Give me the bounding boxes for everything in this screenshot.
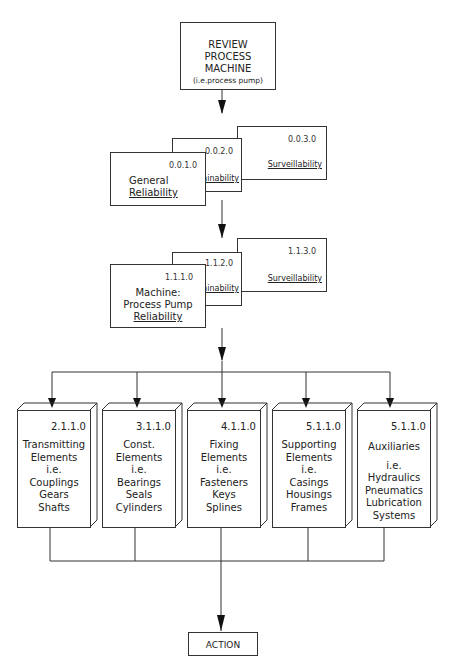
- reliability-line: Reliability: [111, 311, 205, 323]
- machine-line: Machine:: [111, 287, 205, 299]
- element-line: Lubrication: [358, 497, 430, 510]
- element-line: Fasteners: [188, 477, 260, 490]
- element-line: Couplings: [18, 477, 90, 490]
- code-label: 2.1.1.0: [51, 421, 86, 432]
- surveillability-box-0: 0.0.3.0 Surveillability: [237, 126, 327, 180]
- element-line: i.e.: [103, 464, 175, 477]
- element-line: Shafts: [18, 502, 90, 515]
- code-label: 0.0.3.0: [288, 135, 316, 144]
- code-label: 4.1.1.0: [221, 421, 256, 432]
- code-label: 5.1.1.0: [306, 421, 341, 432]
- element-line: Frames: [273, 502, 345, 515]
- code-label: 0.0.1.0: [169, 161, 197, 170]
- element-cube-const: 3.1.1.0 Const. Elements i.e. Bearings Se…: [101, 402, 183, 528]
- element-line: Fixing: [188, 439, 260, 452]
- element-line: Const.: [103, 439, 175, 452]
- element-cube-supporting: 5.1.1.0 Supporting Elements i.e. Casings…: [271, 402, 353, 528]
- element-line: Casings: [273, 477, 345, 490]
- element-line: Supporting: [273, 439, 345, 452]
- element-line: Transmitting: [18, 439, 90, 452]
- element-cube-auxiliaries: 5.1.1.0 Auxiliaries i.e. Hydraulics Pneu…: [356, 402, 438, 528]
- code-label: 3.1.1.0: [136, 421, 171, 432]
- action-label: ACTION: [189, 639, 257, 651]
- machine-line: MACHINE: [181, 63, 275, 75]
- element-line: Systems: [358, 510, 430, 523]
- surveillability-label: Surveillability: [268, 159, 322, 171]
- element-cube-transmitting: 2.1.1.0 Transmitting Elements i.e. Coupl…: [16, 402, 98, 528]
- element-line: Keys: [188, 489, 260, 502]
- element-line: Hydraulics: [358, 472, 430, 485]
- code-label: 5.1.1.0: [391, 421, 426, 432]
- code-label: 0.0.2.0: [205, 147, 233, 156]
- code-label: 1.1.1.0: [165, 273, 193, 282]
- element-line: Elements: [188, 452, 260, 465]
- general-reliability-box: 0.0.1.0 General Reliability: [110, 152, 206, 206]
- review-process-machine-box: REVIEW PROCESS MACHINE (i.e.process pump…: [180, 22, 276, 90]
- surveillability-label: Surveillability: [268, 273, 322, 285]
- element-cube-fixing: 4.1.1.0 Fixing Elements i.e. Fasteners K…: [186, 402, 268, 528]
- element-line: Gears: [18, 489, 90, 502]
- element-line: Bearings: [103, 477, 175, 490]
- element-line: Elements: [273, 452, 345, 465]
- review-line: REVIEW: [181, 39, 275, 51]
- machine-reliability-box: 1.1.1.0 Machine: Process Pump Reliabilit…: [110, 264, 206, 328]
- process-line: PROCESS: [181, 51, 275, 63]
- process-pump-line: Process Pump: [111, 299, 205, 311]
- element-line: Pneumatics: [358, 485, 430, 498]
- element-line: Housings: [273, 489, 345, 502]
- surveillability-box-1: 1.1.3.0 Surveillability: [237, 238, 327, 292]
- general-line: General: [129, 175, 178, 187]
- element-line: Auxiliaries: [358, 441, 430, 454]
- element-line: i.e.: [18, 464, 90, 477]
- connector-lines: [0, 0, 455, 666]
- element-line: i.e.: [358, 460, 430, 473]
- element-line: Elements: [103, 452, 175, 465]
- code-label: 1.1.2.0: [205, 259, 233, 268]
- element-line: Seals: [103, 489, 175, 502]
- code-label: 1.1.3.0: [288, 247, 316, 256]
- review-subtitle: (i.e.process pump): [181, 75, 275, 87]
- element-line: i.e.: [188, 464, 260, 477]
- reliability-line: Reliability: [129, 187, 178, 199]
- element-line: i.e.: [273, 464, 345, 477]
- element-line: Splines: [188, 502, 260, 515]
- element-line: Cylinders: [103, 502, 175, 515]
- element-line: Elements: [18, 452, 90, 465]
- action-box: ACTION: [188, 632, 258, 656]
